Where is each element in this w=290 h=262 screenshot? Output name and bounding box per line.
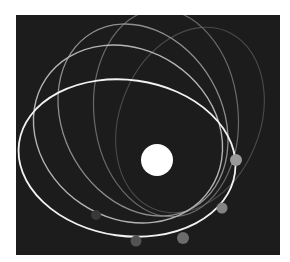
- planet-position-5: [91, 210, 101, 220]
- planet-position-2: [217, 203, 228, 214]
- planet-position-3: [177, 232, 189, 244]
- central-body-group: [141, 144, 173, 176]
- orbits-group: [0, 0, 290, 259]
- planet-position-1: [230, 154, 242, 166]
- orbit-path-1: [8, 66, 246, 251]
- orbit-diagram: [0, 0, 290, 262]
- orbit-path-5: [89, 5, 290, 235]
- central-star: [141, 144, 173, 176]
- planet-position-4: [131, 236, 142, 247]
